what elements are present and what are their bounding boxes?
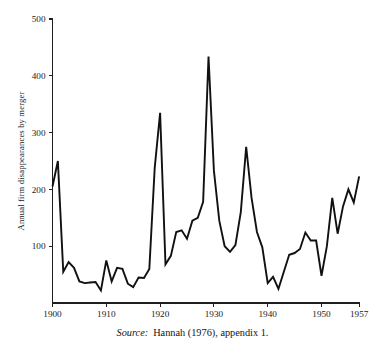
- merger-series-line: [53, 56, 360, 290]
- merger-chart-figure: 100200300400500 190019101920193019401950…: [0, 0, 385, 347]
- data-series-group: [53, 56, 360, 290]
- x-tick-label: 1957: [350, 309, 369, 319]
- y-tick-label: 200: [32, 185, 46, 195]
- x-tick-label: 1920: [151, 309, 170, 319]
- x-tick-label: 1900: [43, 309, 62, 319]
- y-tick-label: 400: [32, 71, 46, 81]
- chart-axes: [53, 19, 361, 303]
- x-axis-ticks: 1900191019201930194019501957: [43, 303, 368, 319]
- line-chart-plot: 100200300400500 190019101920193019401950…: [0, 0, 385, 347]
- x-tick-label: 1910: [97, 309, 116, 319]
- source-note: Source:Hannah (1976), appendix 1.: [0, 327, 385, 338]
- x-tick-label: 1950: [312, 309, 331, 319]
- y-tick-label: 300: [32, 128, 46, 138]
- y-axis-ticks: 100200300400500: [32, 14, 53, 251]
- x-tick-label: 1930: [205, 309, 224, 319]
- y-tick-label: 500: [32, 14, 46, 24]
- y-tick-label: 100: [32, 241, 46, 251]
- y-axis-label-text: Annual firm disappearances by merger: [16, 92, 26, 231]
- source-citation: Hannah (1976), appendix 1.: [153, 327, 268, 338]
- x-tick-label: 1940: [259, 309, 278, 319]
- y-axis-label: Annual firm disappearances by merger: [16, 92, 26, 231]
- source-label: Source:: [117, 327, 149, 338]
